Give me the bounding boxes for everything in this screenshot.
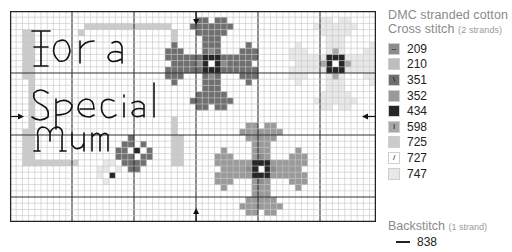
thread-legend: DMC stranded cotton Cross stitch (2 stra… <box>388 8 512 181</box>
legend-item: 434 <box>388 103 512 119</box>
chart-grid <box>10 11 376 222</box>
thread-code: 838 <box>417 235 437 249</box>
swatch-725 <box>388 136 400 148</box>
legend-item: \351 <box>388 72 512 88</box>
legend-item: –209 <box>388 41 512 57</box>
swatch-434 <box>388 105 400 117</box>
legend-item: I598 <box>388 119 512 135</box>
swatch-727: / <box>388 152 400 164</box>
swatch-209: – <box>388 43 400 55</box>
swatch-210 <box>388 58 400 70</box>
swatch-747 <box>388 168 400 180</box>
legend-item: 210 <box>388 57 512 73</box>
swatch-352 <box>388 90 400 102</box>
legend-item: 725 <box>388 135 512 151</box>
backstitch-line-icon <box>396 241 410 243</box>
thread-code: 209 <box>407 42 427 56</box>
legend-item: /727 <box>388 150 512 166</box>
backstitch-item: 838 <box>396 235 487 249</box>
backstitch-title: Backstitch (1 strand) <box>388 219 487 233</box>
thread-code: 725 <box>407 135 427 149</box>
legend-item: 747 <box>388 166 512 182</box>
swatch-598: I <box>388 121 400 133</box>
thread-code: 727 <box>407 151 427 165</box>
thread-code: 434 <box>407 104 427 118</box>
cross-stitch-chart <box>10 11 376 222</box>
thread-code: 352 <box>407 89 427 103</box>
swatch-351: \ <box>388 74 400 86</box>
thread-code: 598 <box>407 120 427 134</box>
legend-subtitle: Cross stitch (2 strands) <box>388 22 512 37</box>
legend-item: 352 <box>388 88 512 104</box>
thread-code: 351 <box>407 73 427 87</box>
backstitch-legend: Backstitch (1 strand) 838 <box>388 219 487 249</box>
legend-title: DMC stranded cotton <box>388 8 512 22</box>
legend-list: –209 210 \351 352 434 I598 725 /727 747 <box>388 41 512 181</box>
thread-code: 210 <box>407 57 427 71</box>
thread-code: 747 <box>407 167 427 181</box>
